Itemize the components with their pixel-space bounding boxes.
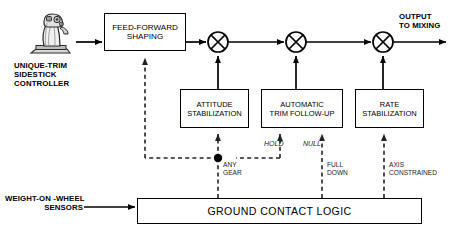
- block-ground-contact-logic[interactable]: GROUND CONTACT LOGIC: [137, 198, 422, 224]
- discrete-label-axis-constrained: AXIS CONSTRAINED: [389, 161, 437, 177]
- sum-3: [373, 32, 393, 52]
- block-feed-forward-shaping[interactable]: FEED-FORWARD SHAPING: [104, 13, 186, 51]
- discrete-label-line2: DOWN: [327, 169, 348, 177]
- flight-control-block-diagram: FEED-FORWARD SHAPING ATTITUDE STABILIZAT…: [0, 0, 456, 236]
- block-label-line2: SHAPING: [127, 32, 163, 41]
- block-label-line1: ATTITUDE: [196, 100, 232, 109]
- sidestick-controller-icon: [31, 14, 70, 53]
- discrete-label-line1: FULL: [327, 161, 348, 169]
- source-label-line3: CONTROLLER: [14, 80, 69, 89]
- block-attitude-stabilization[interactable]: ATTITUDE STABILIZATION: [180, 89, 249, 128]
- discrete-label-full-down: FULL DOWN: [327, 161, 348, 177]
- block-label-line1: AUTOMATIC: [280, 100, 323, 109]
- block-label-line2: STABILIZATION: [362, 109, 416, 118]
- block-automatic-trim-follow-up[interactable]: AUTOMATIC TRIM FOLLOW-UP: [261, 89, 343, 128]
- block-label-line2: STABILIZATION: [187, 109, 241, 118]
- mode-label-hold: HOLD: [264, 140, 283, 148]
- sensor-label-line2: SENSORS: [17, 204, 83, 213]
- sum-1: [208, 32, 228, 52]
- discrete-label-any-gear: ANY GEAR: [223, 161, 242, 177]
- sum-2: [286, 32, 306, 52]
- discrete-label-line2: GEAR: [223, 169, 242, 177]
- block-label-line1: GROUND CONTACT LOGIC: [207, 205, 351, 217]
- discrete-label-line1: AXIS: [389, 161, 437, 169]
- output-label-to-mixing: OUTPUT TO MIXING: [399, 13, 440, 31]
- block-label-line2: TRIM FOLLOW-UP: [270, 109, 335, 118]
- source-label-unique-trim-sidestick-controller: UNIQUE-TRIM SIDESTICK CONTROLLER: [14, 62, 69, 89]
- sensor-label-weight-on-wheel-sensors: WEIGHT-ON -WHEEL SENSORS: [17, 195, 83, 213]
- block-rate-stabilization[interactable]: RATE STABILIZATION: [355, 89, 424, 128]
- any-gear-branch-node: [214, 154, 222, 162]
- block-label-line1: FEED-FORWARD: [112, 23, 178, 32]
- mode-label-null: NULL: [303, 140, 321, 148]
- output-label-line2: TO MIXING: [399, 22, 440, 31]
- discrete-label-line1: ANY: [223, 161, 242, 169]
- discrete-label-line2: CONSTRAINED: [389, 169, 437, 177]
- block-label-line1: RATE: [380, 100, 399, 109]
